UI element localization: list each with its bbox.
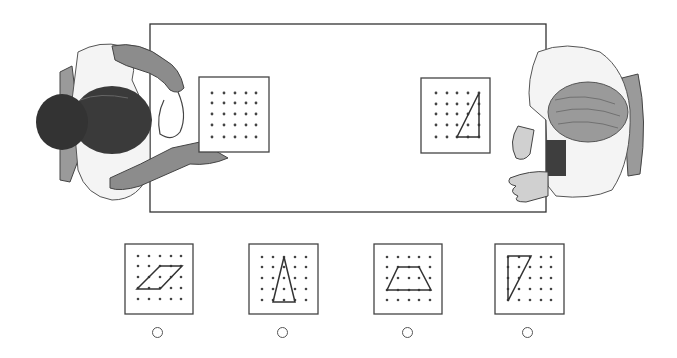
choice-c-geoboard (374, 244, 442, 314)
choice-c-radio[interactable]: C (402, 327, 413, 338)
choice-a-radio[interactable]: A (152, 327, 163, 338)
choice-d-radio[interactable]: D (522, 327, 533, 338)
choice-a-geoboard (125, 244, 193, 314)
choice-b-radio[interactable]: B (277, 327, 288, 338)
right-geoboard (421, 78, 490, 153)
left-geoboard (199, 77, 269, 152)
choice-d-geoboard (495, 244, 564, 314)
illustration (0, 0, 677, 358)
choice-b-geoboard (249, 244, 318, 314)
